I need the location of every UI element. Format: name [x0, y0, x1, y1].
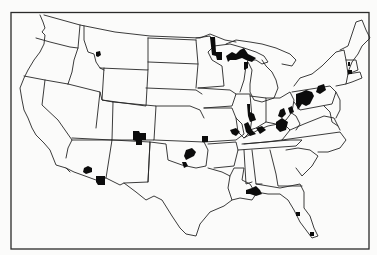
- marked-area-florida-south: [310, 232, 314, 236]
- marked-area-pennsylvania-west: [296, 90, 314, 110]
- marked-area-colorado: [133, 131, 146, 145]
- marked-area-pennsylvania-east: [316, 84, 326, 94]
- marked-area-new-england: [348, 70, 352, 74]
- marked-area-arizona-2: [96, 176, 105, 185]
- map-frame: [11, 13, 369, 250]
- marked-area-michigan-up: [244, 62, 248, 70]
- state-boundaries: [20, 15, 370, 238]
- marked-area-ohio: [278, 108, 286, 118]
- marked-area-florida-central: [296, 212, 300, 216]
- marked-areas: [83, 37, 352, 236]
- marked-area-missouri: [202, 136, 208, 142]
- marked-area-oklahoma: [184, 148, 196, 160]
- marked-area-arizona-1: [83, 166, 92, 174]
- marked-area-new-england-2: [348, 62, 350, 66]
- us-map: [0, 0, 377, 255]
- marked-area-minnesota: [210, 37, 222, 60]
- marked-area-montana: [96, 51, 101, 57]
- marked-area-illinois-south: [230, 128, 240, 136]
- marked-area-alabama: [246, 186, 262, 196]
